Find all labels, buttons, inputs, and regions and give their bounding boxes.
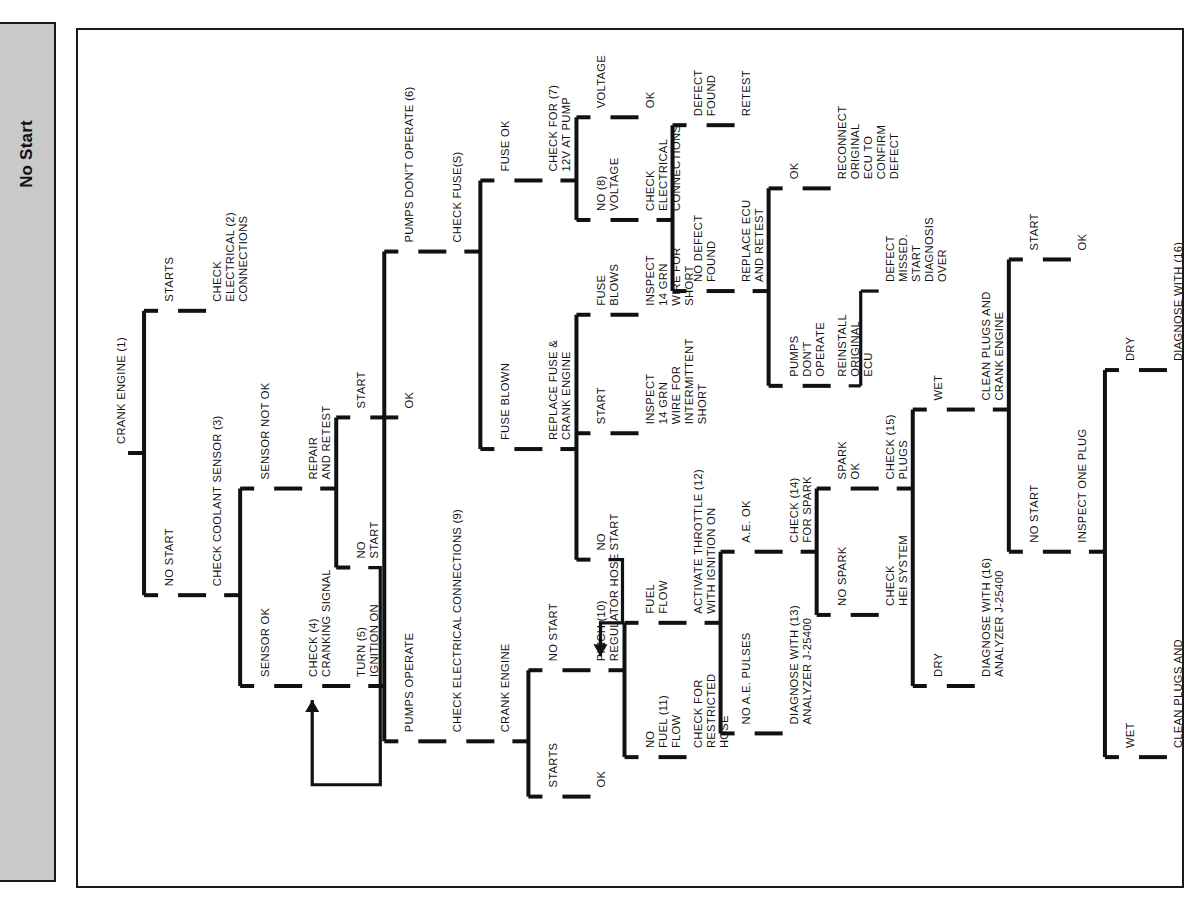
- flowchart-node-text: OK: [849, 463, 861, 480]
- flowchart-node-text: ECU: [862, 352, 874, 377]
- flowchart-node-text: INTERMITTENT: [683, 338, 695, 424]
- flowchart-node-text: OK: [644, 91, 656, 108]
- flowchart-node-text: CONNECTIONS: [670, 125, 682, 211]
- flowchart-node-text: FLOW: [670, 714, 682, 748]
- flowchart-node-text: NO START: [163, 528, 175, 586]
- flowchart-node-text: CHECK: [644, 170, 656, 211]
- flowchart-node-text: NO (8): [595, 176, 607, 211]
- flowchart-node-text: FUEL: [644, 584, 656, 614]
- flowchart-node-text: FUSE BLOWN: [499, 363, 511, 440]
- flowchart-node-text: FUEL (11): [657, 695, 669, 748]
- flowchart-node-text: CHECK FOR (7): [547, 85, 559, 172]
- flowchart-node-text: VOLTAGE: [595, 55, 607, 108]
- flowchart-node-text: OK: [1076, 233, 1088, 250]
- flowchart-node-text: CHECK COOLANT SENSOR (3): [211, 415, 223, 586]
- flowchart-node-text: STARTS: [547, 743, 559, 788]
- flowchart-node-text: PLUGS: [897, 440, 909, 479]
- flowchart-node-text: MISSED.: [897, 234, 909, 282]
- flowchart-node-text: RESTRICTED: [705, 674, 717, 749]
- flowchart-node-text: NO: [595, 533, 607, 550]
- flowchart-node-text: OPERATE: [814, 322, 826, 377]
- flowchart-node-text: CHECK (4): [307, 618, 319, 677]
- flowchart-node-text: STARTS: [163, 257, 175, 302]
- flowchart-node-text: DIAGNOSE WITH (16): [980, 558, 992, 677]
- flowchart-node-text: FOUND: [705, 241, 717, 282]
- flowchart-node-text: CHECK FOR: [692, 679, 704, 748]
- diagram-frame: CRANK ENGINE (1)STARTSNO STARTCHECKELECT…: [76, 28, 1184, 888]
- flowchart-node-text: 14 GRN: [657, 263, 669, 305]
- flowchart-node-text: AND RETEST: [753, 208, 765, 282]
- flowchart-node-text: DIAGNOSIS: [923, 217, 935, 282]
- flowchart-node-text: FOUND: [705, 75, 717, 116]
- flowchart-node-text: HEI SYSTEM: [897, 535, 909, 606]
- flowchart-node-text: DRY: [932, 652, 944, 677]
- flowchart-node-text: DIAGNOSE WITH (13): [788, 605, 800, 724]
- flowchart-node-text: OVER: [936, 249, 948, 282]
- flowchart-node-text: SHORT: [696, 384, 708, 425]
- flowchart-node-text: START: [910, 245, 922, 282]
- flowchart-node-text: ANALYZER J-25400: [993, 570, 1005, 677]
- flowchart-node-text: CLEAN PLUGS AND: [980, 291, 992, 400]
- flowchart-node-labels: CRANK ENGINE (1)STARTSNO STARTCHECKELECT…: [115, 55, 1182, 788]
- flowchart-node-text: TURN (5): [355, 627, 367, 677]
- flowchart-node-text: CONNECTIONS: [237, 216, 249, 302]
- flowchart-node-text: SHORT: [683, 265, 695, 306]
- flowchart-node-text: CHECK (15): [884, 414, 896, 479]
- flowchart-node-text: 14 GRN: [657, 382, 669, 424]
- flowchart-node-text: START: [608, 513, 620, 550]
- flowchart-node-text: NO START: [1028, 485, 1040, 543]
- flowchart-node-text: 12V AT PUMP: [560, 97, 572, 172]
- flowchart-node-text: DEFECT: [692, 70, 704, 117]
- flowchart-node-text: NO SPARK: [836, 546, 848, 606]
- flowchart-node-text: NO START: [547, 603, 559, 661]
- flowchart-node-text: NO: [644, 731, 656, 748]
- flowchart-node-text: NO: [355, 541, 367, 558]
- flowchart-node-text: VOLTAGE: [608, 158, 620, 211]
- flowchart-node-text: WITH IGNITION ON: [705, 508, 717, 614]
- flowchart-node-text: DEFECT: [888, 133, 900, 180]
- flowchart-node-text: WIRE FOR: [670, 366, 682, 424]
- flowchart-node-text: CRANK ENGINE: [993, 312, 1005, 401]
- flowchart-node-text: START: [368, 521, 380, 558]
- side-tab: No Start: [0, 22, 56, 882]
- flowchart-node-text: REINSTALL: [836, 314, 848, 377]
- flowchart-node-text: ECU TO: [862, 136, 874, 180]
- flowchart-node-text: CONFIRM: [875, 125, 887, 179]
- flowchart-node-text: IGNITION ON: [368, 604, 380, 677]
- flowchart-node-text: REPLACE FUSE &: [547, 340, 559, 440]
- flowchart-node-text: CRANK ENGINE (1): [115, 337, 127, 444]
- flowchart-node-text: ANALYZER J-25400: [801, 618, 813, 725]
- flowchart-node-text: ORIGINAL: [849, 123, 861, 179]
- flowchart-node-text: CRANK ENGINE: [499, 643, 511, 732]
- flowchart-node-text: AND RETEST: [320, 406, 332, 480]
- flowchart-node-text: INSPECT: [644, 374, 656, 425]
- flowchart-node-text: CHECK ELECTRICAL CONNECTIONS (9): [451, 509, 463, 732]
- flowchart-node-text: FOR SPARK: [801, 476, 813, 543]
- flowchart-node-text: START: [355, 371, 367, 408]
- flowchart-node-text: CHECK FUSE(S): [451, 151, 463, 242]
- flowchart-node-text: FUSE: [595, 275, 607, 306]
- flowchart-node-text: REGULATOR HOSE: [608, 553, 620, 661]
- flowchart-node-text: HOSE: [718, 715, 730, 748]
- flowchart-node-text: PUMPS OPERATE: [403, 633, 415, 733]
- flowchart-node-text: NO A.E. PULSES: [740, 632, 752, 724]
- flowchart-node-text: OK: [788, 162, 800, 179]
- flowchart-node-text: BLOWS: [608, 264, 620, 306]
- flowchart-node-text: RECONNECT: [836, 106, 848, 180]
- flowchart-connectors: [128, 117, 1167, 796]
- flowchart-node-text: FLOW: [657, 580, 669, 614]
- flowchart-node-text: A.E. OK: [740, 500, 752, 543]
- flowchart-node-text: START: [1028, 213, 1040, 250]
- side-tab-label: No Start: [17, 120, 37, 188]
- flowchart-node-text: WET: [1124, 722, 1136, 748]
- flowchart-node-text: OK: [595, 771, 607, 788]
- flowchart-node-text: ELECTRICAL (2): [224, 212, 236, 302]
- flowchart-node-text: SENSOR OK: [259, 607, 271, 677]
- flowchart-node-text: REPAIR: [307, 437, 319, 480]
- flowchart-node-text: DIAGNOSE WITH (16): [1172, 242, 1182, 361]
- flowchart-node-text: CRANK ENGINE: [560, 351, 572, 440]
- flowchart-node-text: DRY: [1124, 336, 1136, 361]
- flowchart-node-text: CLEAN PLUGS AND: [1172, 639, 1182, 748]
- flowchart-node-text: ACTIVATE THROTTLE (12): [692, 469, 704, 614]
- flowchart-node-text: PINCH (10): [595, 600, 607, 661]
